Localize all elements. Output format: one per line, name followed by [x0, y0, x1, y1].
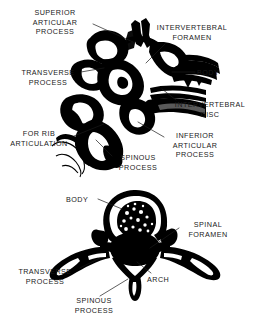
label-spinous-process-superior: SPINOUS PROCESS — [66, 296, 122, 315]
cancellous-bone-speckle — [117, 201, 156, 240]
figure-canvas: SUPERIOR ARTICULAR PROCESS INTERVERTEBRA… — [0, 0, 256, 320]
label-arch: ARCH — [147, 275, 187, 285]
label-inferior-articular-process: INFERIOR ARTICULAR PROCESS — [166, 131, 224, 160]
label-intervertebral-foramen: INTERVERTEBRAL FORAMEN — [152, 23, 232, 42]
label-superior-articular-process: SUPERIOR ARTICULAR PROCESS — [18, 8, 92, 37]
label-spinous-process-lateral: SPINOUS PROCESS — [110, 153, 166, 172]
label-intervertebral-disc: INTERVERTEBRAL DISC — [169, 100, 251, 119]
label-transverse-process-superior: TRANSVERSE PROCESS — [12, 267, 78, 286]
label-body-lateral: BODY — [197, 68, 237, 78]
label-transverse-process-lateral: TRANSVERSE PROCESS — [16, 68, 80, 87]
label-body-superior: BODY — [66, 195, 106, 205]
label-spinal-foramen: SPINAL FORAMEN — [181, 220, 235, 239]
label-for-rib-articulation: FOR RIB ARTICULATION — [4, 129, 74, 148]
